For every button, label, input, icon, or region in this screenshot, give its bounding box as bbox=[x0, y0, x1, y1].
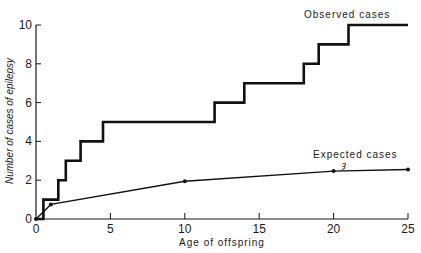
expected-point bbox=[49, 202, 53, 206]
expected-point bbox=[332, 169, 336, 173]
expected-point bbox=[34, 217, 38, 221]
x-tick-label: 0 bbox=[33, 222, 40, 236]
axes bbox=[36, 25, 408, 219]
y-tick-label: 2 bbox=[25, 173, 32, 187]
pointer-mark: ȝ bbox=[341, 160, 346, 170]
y-tick-label: 0 bbox=[25, 212, 32, 226]
series-layer bbox=[34, 25, 410, 221]
chart: 05101520250246810 Age of offspring Numbe… bbox=[0, 0, 421, 253]
expected-point bbox=[406, 168, 410, 172]
x-tick-label: 15 bbox=[253, 222, 267, 236]
y-tick-label: 4 bbox=[25, 134, 32, 148]
y-axis-title: Number of cases of epilepsy bbox=[4, 57, 15, 184]
observed-cases-line bbox=[36, 25, 408, 219]
x-tick-label: 25 bbox=[401, 222, 415, 236]
x-tick-label: 10 bbox=[178, 222, 192, 236]
x-axis-title: Age of offspring bbox=[179, 237, 265, 248]
expected-cases-label: Expected cases bbox=[313, 149, 398, 160]
y-tick-label: 8 bbox=[25, 57, 32, 71]
x-tick-label: 5 bbox=[107, 222, 114, 236]
y-tick-label: 10 bbox=[19, 18, 33, 32]
expected-cases-line bbox=[36, 170, 408, 220]
observed-cases-label: Observed cases bbox=[304, 9, 390, 20]
expected-point bbox=[183, 179, 187, 183]
axis-ticks: 05101520250246810 bbox=[19, 18, 415, 236]
x-tick-label: 20 bbox=[327, 222, 341, 236]
y-tick-label: 6 bbox=[25, 96, 32, 110]
